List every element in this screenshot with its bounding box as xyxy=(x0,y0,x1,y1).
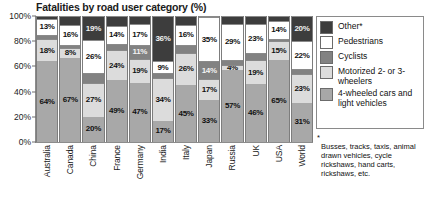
x-axis-category-label: China xyxy=(88,145,98,167)
bar-segment[interactable]: 33% xyxy=(199,100,219,142)
y-axis: 0%20%40%60%80%100% xyxy=(0,16,36,142)
y-axis-tick-label: 40% xyxy=(14,87,31,97)
bar-segment-value-label: 46% xyxy=(248,109,263,117)
bar-segment[interactable]: 16% xyxy=(60,25,80,45)
bar-segment[interactable]: 34% xyxy=(153,78,173,121)
bar-segment-value-label: 64% xyxy=(40,98,55,106)
bar-segment[interactable]: 4% xyxy=(222,65,242,70)
bar-segment-value-label: 20% xyxy=(86,125,101,133)
legend-swatch-icon xyxy=(320,21,333,34)
bar-segment[interactable]: 20% xyxy=(292,16,312,41)
bar-segment[interactable]: 8% xyxy=(60,48,80,58)
bar-segment[interactable]: 67% xyxy=(60,58,80,142)
x-axis-category-cell: World xyxy=(291,143,313,203)
bar-segment[interactable] xyxy=(60,45,80,48)
bar-segment-value-label: 35% xyxy=(202,36,217,44)
bar-segment[interactable]: 16% xyxy=(176,25,196,45)
bar-segment[interactable]: 17% xyxy=(130,24,150,45)
bar-segment[interactable]: 36% xyxy=(153,16,173,61)
bar-column[interactable]: 17%34%9%36% xyxy=(152,16,174,142)
bar-segment[interactable]: 24% xyxy=(107,50,127,80)
legend-item[interactable]: Other* xyxy=(320,20,420,34)
bar-segment[interactable]: 23% xyxy=(246,24,266,53)
bar-segment[interactable]: 11% xyxy=(130,45,150,59)
bar-segment[interactable]: 19% xyxy=(83,16,103,40)
bar-column[interactable]: 33%17%14%35% xyxy=(198,16,220,142)
bar-column[interactable]: 46%19%23% xyxy=(245,16,267,142)
bar-segment[interactable]: 20% xyxy=(83,117,103,142)
bar-segment[interactable] xyxy=(246,16,266,24)
bar-segment[interactable]: 23% xyxy=(292,74,312,103)
bar-segment-value-label: 8% xyxy=(65,49,76,57)
bar-segment[interactable]: 14% xyxy=(107,26,127,44)
x-axis-category-cell: UK xyxy=(245,143,267,203)
bar-column[interactable]: 45%26%16% xyxy=(175,16,197,142)
bar-segment[interactable]: 17% xyxy=(153,121,173,142)
bar-segment[interactable]: 9% xyxy=(153,61,173,72)
bar-segment[interactable] xyxy=(37,16,57,19)
bar-column[interactable]: 64%18%13% xyxy=(36,16,58,142)
bar-segment[interactable] xyxy=(107,16,127,26)
bar-segment[interactable] xyxy=(107,44,127,50)
bar-segment[interactable] xyxy=(222,60,242,65)
bar-segment[interactable]: 31% xyxy=(292,103,312,142)
bar-segment-value-label: 24% xyxy=(109,62,124,70)
bar-segment[interactable]: 35% xyxy=(199,17,219,61)
plot-area: 64%18%13%67%8%16%20%27%26%19%49%24%14%47… xyxy=(36,16,313,142)
bar-segment-value-label: 22% xyxy=(294,52,309,60)
bar-segment-value-label: 57% xyxy=(225,102,240,110)
bar-segment[interactable] xyxy=(60,16,80,25)
legend-item[interactable]: 4-wheeled cars and light vehicles xyxy=(320,87,420,108)
bar-segment[interactable]: 49% xyxy=(107,80,127,142)
bar-segment[interactable]: 14% xyxy=(199,61,219,79)
x-axis-category-label: Italy xyxy=(181,145,191,160)
legend-item[interactable]: Pedestrians xyxy=(320,35,420,49)
bar-segment[interactable] xyxy=(269,16,289,21)
bar-segment[interactable]: 13% xyxy=(37,19,57,35)
bar-segment[interactable]: 46% xyxy=(246,84,266,142)
bar-segment[interactable]: 18% xyxy=(37,39,57,62)
bar-segment[interactable]: 14% xyxy=(269,21,289,39)
bar-segment[interactable]: 17% xyxy=(199,79,219,100)
x-axis-category-label: Japan xyxy=(204,145,214,168)
bar-segment[interactable] xyxy=(222,16,242,24)
bar-segment[interactable] xyxy=(83,73,103,83)
bar-segment[interactable]: 57% xyxy=(222,70,242,142)
bar-segment[interactable]: 65% xyxy=(269,60,289,142)
bar-segment[interactable] xyxy=(199,16,219,17)
bar-segment[interactable] xyxy=(292,69,312,74)
bar-segment[interactable]: 47% xyxy=(130,83,150,142)
bar-column[interactable]: 57%4%29% xyxy=(221,16,243,142)
bar-segment[interactable]: 15% xyxy=(269,41,289,60)
bar-segment[interactable]: 27% xyxy=(83,83,103,117)
bar-segment[interactable] xyxy=(153,73,173,78)
bar-segment-value-label: 29% xyxy=(225,38,240,46)
bar-column[interactable]: 20%27%26%19% xyxy=(82,16,104,142)
x-axis-category-label: India xyxy=(158,145,168,163)
bar-column[interactable]: 65%15%14% xyxy=(268,16,290,142)
bar-segment[interactable]: 19% xyxy=(246,60,266,84)
bar-segment[interactable] xyxy=(130,16,150,24)
bar-segment[interactable]: 45% xyxy=(176,85,196,142)
bar-segment[interactable]: 22% xyxy=(292,41,312,69)
bar-segment[interactable] xyxy=(176,16,196,25)
bar-column[interactable]: 49%24%14% xyxy=(106,16,128,142)
x-axis-category-cell: Italy xyxy=(175,143,197,203)
bars-row: 64%18%13%67%8%16%20%27%26%19%49%24%14%47… xyxy=(36,16,313,142)
bar-segment[interactable] xyxy=(269,39,289,42)
bar-segment[interactable] xyxy=(246,53,266,61)
bar-segment[interactable]: 26% xyxy=(83,40,103,73)
bar-segment[interactable]: 64% xyxy=(37,61,57,142)
bar-column[interactable]: 67%8%16% xyxy=(59,16,81,142)
bar-segment[interactable]: 29% xyxy=(222,24,242,61)
footnote: *Busses, tracks, taxis, animal drawn veh… xyxy=(317,133,427,178)
bar-column[interactable]: 47%19%11%17% xyxy=(129,16,151,142)
bar-segment[interactable] xyxy=(176,45,196,53)
x-axis-category-labels: AustraliaCanadaChinaFranceGermanyIndiaIt… xyxy=(36,143,313,203)
bar-segment[interactable] xyxy=(37,35,57,39)
bar-segment[interactable]: 26% xyxy=(176,53,196,86)
legend-item[interactable]: Motorized 2- or 3-wheelers xyxy=(320,65,420,86)
bar-segment[interactable]: 19% xyxy=(130,59,150,83)
legend-item[interactable]: Cyclists xyxy=(320,50,420,64)
bar-column[interactable]: 31%23%22%20% xyxy=(291,16,313,142)
